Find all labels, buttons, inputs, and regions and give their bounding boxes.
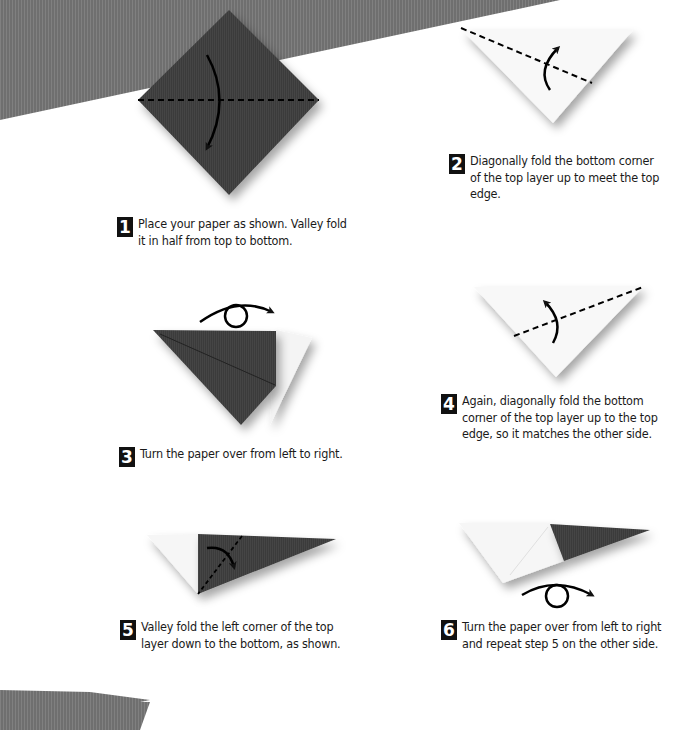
- step-1-diagram: [138, 10, 319, 195]
- step-number-badge: 5: [120, 620, 136, 640]
- step-text: Valley fold the left corner of the top l…: [141, 619, 345, 652]
- step-text: Diagonally fold the bottom corner of the…: [470, 153, 664, 203]
- step-text: Turn the paper over from left to right a…: [462, 619, 671, 652]
- step-number-badge: 4: [441, 394, 457, 414]
- step-2-diagram: [461, 28, 633, 123]
- step-4: 4 Again, diagonally fold the bottom corn…: [441, 393, 666, 443]
- step-number-badge: 1: [117, 217, 133, 237]
- step-5: 5 Valley fold the left corner of the top…: [120, 619, 345, 652]
- step-text: Place your paper as shown. Valley fold i…: [138, 216, 347, 249]
- step-6-diagram: [459, 523, 650, 607]
- step-text: Turn the paper over from left to right.: [140, 446, 343, 463]
- step-3-diagram: [153, 305, 312, 425]
- step-6: 6 Turn the paper over from left to right…: [441, 619, 671, 652]
- step-text: Again, diagonally fold the bottom corner…: [462, 393, 666, 443]
- step-3: 3 Turn the paper over from left to right…: [119, 446, 359, 467]
- step-2: 2 Diagonally fold the bottom corner of t…: [449, 153, 664, 203]
- step-5-diagram: [147, 534, 336, 594]
- step-number-badge: 3: [119, 447, 135, 467]
- step-number-badge: 2: [449, 154, 465, 174]
- step-4-diagram: [474, 287, 643, 377]
- step-1: 1 Place your paper as shown. Valley fold…: [117, 216, 347, 249]
- step-number-badge: 6: [441, 620, 457, 640]
